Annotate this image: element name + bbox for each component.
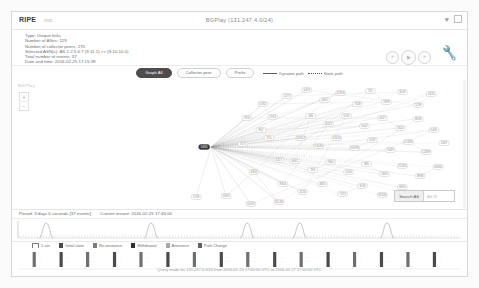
- as-node[interactable]: 1916: [242, 116, 252, 121]
- as-node[interactable]: 4134: [298, 190, 308, 195]
- as-node[interactable]: 1273: [282, 94, 292, 99]
- as-node[interactable]: 20130: [274, 200, 284, 205]
- as-node[interactable]: 4323: [426, 92, 436, 97]
- event-bar: [380, 252, 383, 267]
- search-as-button[interactable]: Search AS: [395, 191, 424, 201]
- as-node[interactable]: 24961: [433, 165, 443, 170]
- as-node[interactable]: 2914: [268, 115, 278, 120]
- as-node[interactable]: 2603: [379, 172, 389, 177]
- svg-text:· · ·: · · ·: [305, 261, 309, 264]
- as-node[interactable]: 12956: [336, 91, 346, 96]
- as-node[interactable]: 8928: [413, 117, 423, 122]
- as-node[interactable]: 29076: [350, 146, 360, 151]
- as-node[interactable]: 6830: [397, 185, 407, 190]
- zoom-in-button[interactable]: +: [20, 93, 28, 101]
- svg-text:· · ·: · · ·: [172, 261, 176, 264]
- search-as-input[interactable]: AS N: [424, 191, 454, 201]
- svg-text:9049: 9049: [387, 148, 394, 152]
- svg-text:20130: 20130: [275, 200, 284, 204]
- as-node[interactable]: 1239: [413, 103, 423, 108]
- event-histogram[interactable]: [12, 219, 467, 242]
- svg-text:· · ·: · · ·: [65, 261, 69, 264]
- path-legend: Dynamic path Static path: [263, 71, 342, 76]
- as-node[interactable]: 1103: [344, 170, 354, 175]
- as-node[interactable]: 8220: [324, 122, 334, 127]
- as-node[interactable]: 3267: [367, 138, 377, 143]
- as-node[interactable]: 293: [308, 168, 318, 173]
- as-node[interactable]: 680: [361, 162, 371, 167]
- as-node[interactable]: 9049: [385, 148, 395, 153]
- svg-text:24961: 24961: [434, 165, 443, 169]
- as-node[interactable]: 6762: [258, 102, 268, 107]
- as-node[interactable]: 5511: [342, 114, 352, 119]
- legend-static-path: Static path: [308, 71, 343, 76]
- as-node[interactable]: 7018: [353, 102, 363, 107]
- event-timeline-strip[interactable]: · · ·· · ·· · ·· · ·· · ·· · ·· · ·· · ·…: [12, 250, 467, 276]
- rewind-button[interactable]: «: [386, 51, 399, 64]
- as-node[interactable]: 286: [306, 114, 316, 119]
- as-node[interactable]: 7473: [338, 192, 348, 197]
- tab-prefix[interactable]: Prefix: [226, 68, 255, 78]
- as-node[interactable]: 6453: [302, 88, 312, 93]
- fullscreen-icon[interactable]: [454, 15, 462, 23]
- svg-text:293: 293: [310, 168, 315, 172]
- play-button[interactable]: ▶: [401, 50, 416, 65]
- as-node[interactable]: 3257: [274, 158, 284, 163]
- as-node[interactable]: 3320: [395, 126, 405, 131]
- as-node[interactable]: 4826: [318, 182, 328, 187]
- svg-text:· · ·: · · ·: [92, 257, 96, 260]
- tab-graph-all[interactable]: Graph All: [136, 68, 171, 78]
- event-bar: [220, 252, 223, 267]
- as-node[interactable]: 13030: [314, 144, 324, 149]
- as-node[interactable]: 7660: [326, 160, 336, 165]
- as-node[interactable]: 4637: [377, 116, 387, 121]
- as-node[interactable]: 701: [365, 89, 375, 94]
- as-node[interactable]: 9002: [359, 124, 369, 129]
- svg-text:· · ·: · · ·: [438, 257, 442, 260]
- as-node[interactable]: 11537: [246, 202, 256, 207]
- as-node[interactable]: 6939: [221, 194, 231, 199]
- svg-text:3356: 3356: [251, 170, 258, 174]
- as-node[interactable]: 31133: [332, 136, 342, 141]
- wrench-icon[interactable]: 🔧: [441, 45, 459, 60]
- svg-text:· · ·: · · ·: [358, 257, 362, 260]
- as-node[interactable]: 20912: [296, 136, 306, 141]
- heart-icon[interactable]: ♥: [445, 16, 449, 23]
- as-graph-canvas[interactable]: 5455335612996939291417432576762127364533…: [12, 79, 467, 210]
- as-node[interactable]: 3130: [357, 184, 367, 189]
- as-node[interactable]: 852: [256, 128, 266, 133]
- svg-text:6461: 6461: [291, 159, 298, 163]
- as-node[interactable]: 2497: [439, 141, 449, 146]
- svg-text:7575: 7575: [240, 142, 247, 146]
- svg-text:8220: 8220: [325, 122, 332, 126]
- event-histogram-svg: [12, 219, 467, 241]
- as-node[interactable]: 21320: [397, 164, 407, 169]
- as-node[interactable]: 2828: [381, 100, 391, 105]
- path-change-swatch: [198, 243, 202, 248]
- as-node[interactable]: 3356: [249, 170, 259, 175]
- svg-text:· · ·: · · ·: [38, 253, 42, 256]
- graph-scrollbar[interactable]: [463, 80, 466, 208]
- svg-text:1299: 1299: [193, 195, 200, 199]
- as-node[interactable]: 8968: [415, 174, 425, 179]
- as-node[interactable]: 12389: [421, 150, 431, 155]
- as-node[interactable]: 6461: [290, 159, 300, 164]
- as-node[interactable]: 6461: [429, 128, 439, 133]
- as-node[interactable]: 3491: [320, 98, 330, 103]
- zoom-out-button[interactable]: −: [20, 101, 28, 110]
- as-node[interactable]: 35320: [377, 193, 387, 198]
- as-node[interactable]: 3549: [397, 90, 407, 95]
- as-node[interactable]: 1299: [191, 195, 201, 200]
- as-node-source[interactable]: 5455: [199, 145, 210, 150]
- svg-text:· · ·: · · ·: [172, 253, 176, 256]
- svg-text:· · ·: · · ·: [305, 257, 309, 260]
- as-node[interactable]: 9304: [278, 182, 288, 187]
- as-node[interactable]: 15169: [403, 140, 413, 145]
- forward-button[interactable]: »: [418, 51, 431, 64]
- as-node[interactable]: 7575: [238, 142, 248, 147]
- svg-text:· · ·: · · ·: [279, 261, 283, 264]
- as-node[interactable]: 174: [264, 136, 274, 141]
- bgplay-app: RIPE stat BGPlay (131.247.4.0/24) ♥ Type…: [0, 0, 479, 288]
- svg-text:· · ·: · · ·: [412, 257, 416, 260]
- tab-collector-peer[interactable]: Collector peer: [177, 68, 221, 78]
